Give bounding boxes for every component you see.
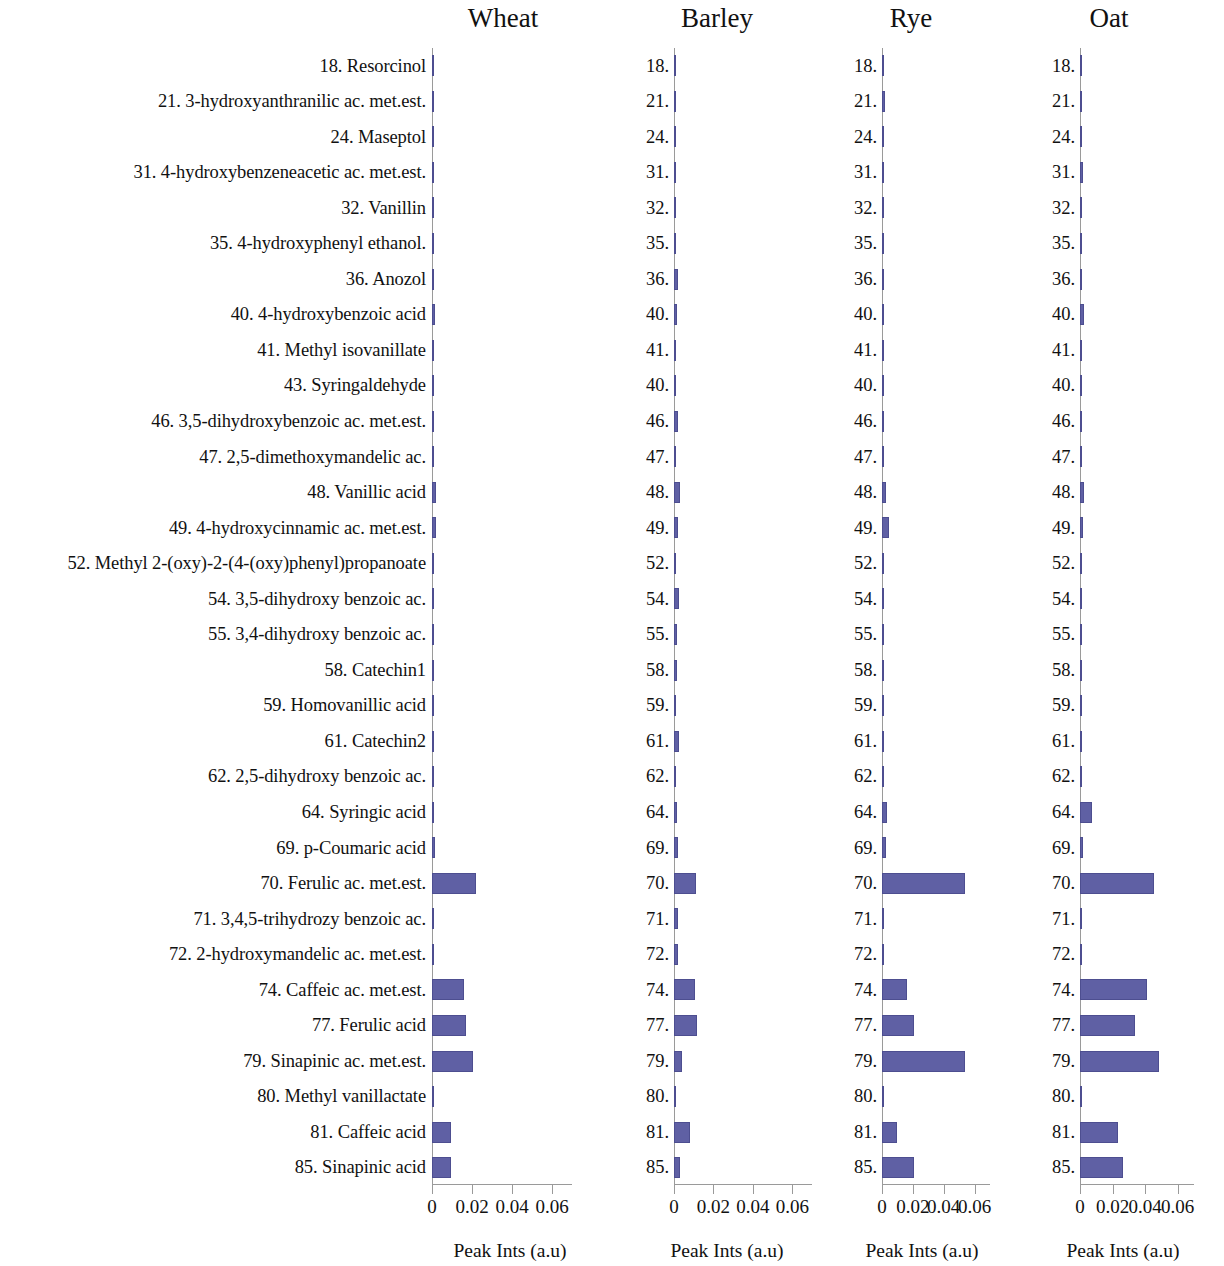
bar-row	[674, 688, 812, 724]
compound-label: 47. 2,5-dimethoxymandelic ac.	[0, 439, 432, 475]
plot-area-oat: 18.21.24.31.32.35.36.40.41.40.46.47.48.4…	[1036, 48, 1224, 1185]
bar	[1080, 411, 1082, 432]
panel-wheat: Wheat 00.020.040.06 Peak Ints (a.u)	[432, 0, 630, 1266]
row-number: 77.	[1036, 1008, 1080, 1044]
compound-label: 77. Ferulic acid	[0, 1008, 432, 1044]
row-number: 32.	[838, 190, 882, 226]
bar-row	[674, 972, 812, 1008]
x-ticks	[838, 1185, 1036, 1194]
bar-row	[674, 901, 812, 937]
bar	[674, 126, 676, 147]
row-number: 49.	[1036, 510, 1080, 546]
x-tick-labels: 00.020.040.06	[1036, 1194, 1224, 1222]
row-number: 72.	[838, 937, 882, 973]
x-ticks	[1036, 1185, 1224, 1194]
bar-row	[1080, 901, 1194, 937]
row-number: 72.	[630, 937, 674, 973]
x-ticks	[630, 1185, 838, 1194]
x-tick-mark	[1113, 1185, 1114, 1194]
bar	[1080, 446, 1082, 467]
bar-row	[674, 1114, 812, 1150]
compound-label: 72. 2-hydroxymandelic ac. met.est.	[0, 937, 432, 973]
bar	[674, 91, 676, 112]
bar-row	[674, 581, 812, 617]
bar-row	[1080, 190, 1194, 226]
bar-row	[674, 403, 812, 439]
bar-row	[432, 439, 572, 475]
bar	[882, 269, 884, 290]
bar-row	[674, 866, 812, 902]
x-tick-label: 0	[1075, 1196, 1085, 1218]
bar-row	[674, 794, 812, 830]
bar-row	[1080, 652, 1194, 688]
bar-row	[882, 581, 990, 617]
bar	[432, 1157, 451, 1178]
bar	[432, 1086, 434, 1107]
bar	[1080, 1015, 1135, 1036]
x-tick-mark	[975, 1185, 976, 1194]
row-number: 40.	[1036, 297, 1080, 333]
bar	[674, 162, 676, 183]
bar-row	[882, 48, 990, 84]
bar	[674, 1051, 682, 1072]
compound-label: 24. Maseptol	[0, 119, 432, 155]
row-number: 58.	[838, 652, 882, 688]
bar-row	[674, 368, 812, 404]
bar-row	[432, 652, 572, 688]
row-number: 36.	[838, 261, 882, 297]
compound-label-column: 18. Resorcinol21. 3-hydroxyanthranilic a…	[0, 0, 432, 1266]
bar	[1080, 1086, 1082, 1107]
bar	[882, 695, 884, 716]
bar-row	[882, 972, 990, 1008]
bar	[674, 802, 677, 823]
bar-row	[882, 937, 990, 973]
axis-footer-oat: 00.020.040.06 Peak Ints (a.u)	[1036, 1185, 1224, 1262]
compound-label: 48. Vanillic acid	[0, 475, 432, 511]
bar	[432, 126, 434, 147]
compound-label: 41. Methyl isovanillate	[0, 332, 432, 368]
bar	[882, 126, 884, 147]
bar-row	[432, 403, 572, 439]
bar-row	[1080, 155, 1194, 191]
plot-area-barley: 18.21.24.31.32.35.36.40.41.40.46.47.48.4…	[630, 48, 838, 1185]
bar-row	[1080, 1150, 1194, 1186]
row-number: 21.	[630, 84, 674, 120]
bars-oat	[1080, 48, 1194, 1185]
panel-title-rye: Rye	[838, 0, 1036, 48]
bar	[1080, 126, 1082, 147]
x-tick-label: 0.06	[535, 1196, 568, 1218]
row-number: 61.	[630, 723, 674, 759]
bar-row	[674, 332, 812, 368]
compound-label: 54. 3,5-dihydroxy benzoic ac.	[0, 581, 432, 617]
bar	[1080, 1122, 1118, 1143]
bar-row	[882, 723, 990, 759]
bar	[882, 340, 884, 361]
bar	[432, 766, 434, 787]
bar-row	[882, 155, 990, 191]
bar-row	[432, 297, 572, 333]
bar-row	[882, 297, 990, 333]
bar-row	[882, 546, 990, 582]
bar-row	[882, 261, 990, 297]
bar	[1080, 340, 1082, 361]
bar-row	[1080, 1114, 1194, 1150]
bar	[882, 660, 884, 681]
bar	[432, 1122, 451, 1143]
bar	[882, 802, 887, 823]
bar	[1080, 695, 1082, 716]
x-axis-caption: Peak Ints (a.u)	[432, 1240, 630, 1262]
compound-label: 80. Methyl vanillactate	[0, 1079, 432, 1115]
row-number: 54.	[838, 581, 882, 617]
bar-row	[674, 84, 812, 120]
compound-label: 74. Caffeic ac. met.est.	[0, 972, 432, 1008]
bar-row	[674, 1008, 812, 1044]
compound-label: 69. p-Coumaric acid	[0, 830, 432, 866]
bar-row	[1080, 581, 1194, 617]
compound-label: 46. 3,5-dihydroxybenzoic ac. met.est.	[0, 403, 432, 439]
x-tick-label: 0.04	[927, 1196, 960, 1218]
row-number: 32.	[1036, 190, 1080, 226]
compound-label: 31. 4-hydroxybenzeneacetic ac. met.est.	[0, 155, 432, 191]
bar	[882, 411, 884, 432]
bar-row	[882, 1008, 990, 1044]
bar	[1080, 233, 1082, 254]
